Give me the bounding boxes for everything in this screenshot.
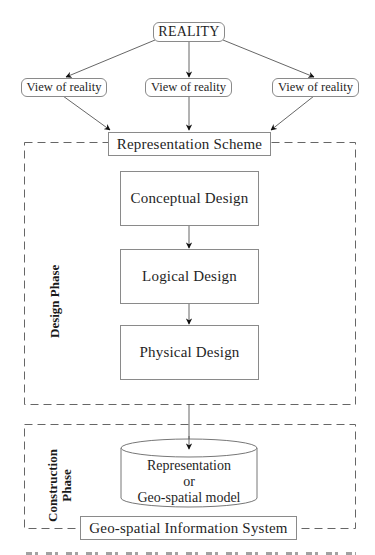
view-of-reality-middle: View of reality — [145, 78, 232, 97]
model-line-2: or — [120, 474, 258, 490]
representation-scheme-node: Representation Scheme — [108, 132, 271, 156]
model-line-1: Representation — [120, 458, 258, 474]
figure-caption-clipped — [26, 548, 356, 555]
logical-design-node: Logical Design — [120, 249, 259, 304]
conceptual-design-node: Conceptual Design — [120, 171, 259, 226]
geo-spatial-model-text: Representation or Geo-spatial model — [120, 458, 258, 506]
reality-node: REALITY — [153, 22, 225, 42]
model-line-3: Geo-spatial model — [120, 490, 258, 506]
arrow-view-left-to-scheme — [63, 96, 110, 130]
arrow-reality-to-view-right — [223, 40, 314, 77]
design-phase-label: Design Phase — [48, 265, 62, 338]
view-of-reality-left: View of reality — [21, 78, 107, 97]
construction-phase-label-line2: Phase — [60, 449, 74, 522]
construction-phase-label: Construction Phase — [46, 449, 73, 522]
construction-phase-label-line1: Construction — [46, 449, 60, 522]
view-of-reality-right: View of reality — [272, 78, 359, 97]
arrow-reality-to-view-left — [66, 40, 155, 77]
arrow-view-right-to-scheme — [271, 96, 314, 130]
geo-spatial-information-system-node: Geo-spatial Information System — [80, 516, 297, 540]
physical-design-node: Physical Design — [120, 325, 259, 380]
